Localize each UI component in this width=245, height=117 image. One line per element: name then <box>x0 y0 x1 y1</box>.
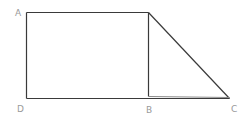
label-D: D <box>17 104 24 114</box>
geometry-diagram: A D B C <box>0 0 245 117</box>
edge-hypotenuse <box>149 13 230 99</box>
label-A: A <box>15 8 22 18</box>
edge-BC <box>149 97 230 98</box>
label-C: C <box>231 104 237 114</box>
label-B: B <box>146 105 152 115</box>
